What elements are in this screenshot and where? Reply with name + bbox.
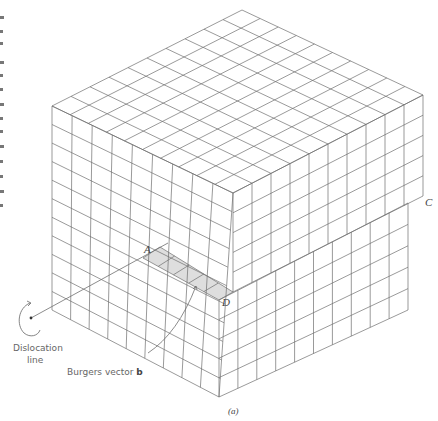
figure-caption: (a) (228, 405, 239, 417)
dislocation-line-label-line1: Dislocation (13, 342, 63, 354)
margin-text-fragment (0, 30, 3, 33)
label-C: C (425, 196, 432, 208)
burgers-vector-label: Burgers vector b (67, 366, 143, 378)
crystal-lattice-grid (52, 10, 423, 397)
margin-text-fragment (0, 190, 4, 193)
margin-text-fragment (0, 175, 3, 178)
margin-text-fragment (0, 160, 3, 163)
margin-text-fragment (0, 130, 3, 133)
label-D: D (222, 296, 230, 308)
margin-text-fragment (0, 16, 4, 19)
margin-text-fragment (0, 103, 4, 106)
shaded-step-shelf (143, 247, 233, 300)
margin-text-fragment (0, 145, 4, 148)
margin-text-fragment (0, 88, 3, 91)
edge-dislocation-cube-diagram (0, 0, 438, 421)
label-A: A (144, 243, 151, 255)
margin-text-fragment (0, 204, 3, 207)
dislocation-line-label-line2: line (27, 354, 43, 366)
burgers-vector-symbol: b (136, 367, 142, 377)
margin-text-fragment (0, 42, 3, 45)
margin-text-fragment (0, 61, 4, 64)
margin-text-fragment (0, 117, 3, 120)
burgers-vector-text: Burgers vector (67, 367, 136, 377)
margin-text-fragment (0, 74, 3, 77)
dislocation-line-rotation-icon (19, 301, 40, 336)
